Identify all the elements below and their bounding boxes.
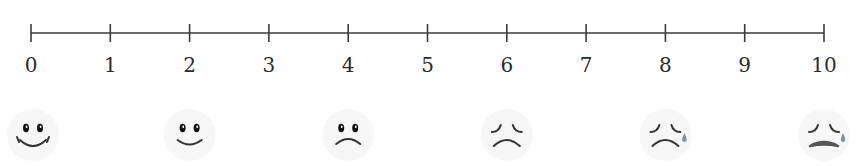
face-outline xyxy=(164,109,216,161)
scale-labels: 012345678910 xyxy=(25,53,837,77)
face-outline xyxy=(322,109,374,161)
tick-label-6: 6 xyxy=(500,53,513,77)
eye-highlight xyxy=(341,126,343,129)
tick-label-7: 7 xyxy=(580,53,593,77)
tick-label-2: 2 xyxy=(183,53,196,77)
frown-closed-eyes-face-icon xyxy=(481,109,533,161)
scale-faces xyxy=(7,109,850,161)
face-outline xyxy=(7,109,59,161)
tick-label-0: 0 xyxy=(25,53,38,77)
frown-face-icon xyxy=(322,109,374,161)
left-eye xyxy=(180,124,186,132)
tick-label-1: 1 xyxy=(104,53,117,77)
crying-face-icon xyxy=(639,109,691,161)
eye-highlight xyxy=(26,126,28,129)
smile-face-icon xyxy=(164,109,216,161)
worst-pain-face-icon xyxy=(798,109,850,161)
face-outline xyxy=(481,109,533,161)
tick-label-10: 10 xyxy=(811,53,836,77)
right-eye xyxy=(352,124,358,132)
eye-highlight xyxy=(182,126,184,129)
tick-label-5: 5 xyxy=(421,53,434,77)
tick-label-3: 3 xyxy=(263,53,276,77)
left-eye xyxy=(338,124,344,132)
big-smile-face-icon xyxy=(7,109,59,161)
pain-scale-diagram: 012345678910 xyxy=(0,0,856,166)
tick-label-8: 8 xyxy=(659,53,672,77)
eye-highlight xyxy=(355,126,357,129)
eye-highlight xyxy=(196,126,198,129)
tick-label-9: 9 xyxy=(738,53,751,77)
eye-highlight xyxy=(40,126,42,129)
left-eye xyxy=(23,124,29,132)
right-eye xyxy=(37,124,43,132)
tick-label-4: 4 xyxy=(342,53,355,77)
right-eye xyxy=(194,124,200,132)
